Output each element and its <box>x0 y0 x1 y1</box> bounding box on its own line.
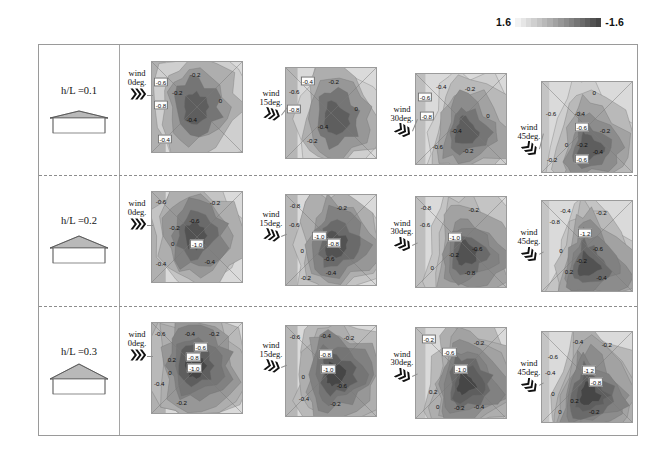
contour-value-label: -0.6 <box>156 198 166 205</box>
wind-arrow-chevron-icon <box>509 141 549 154</box>
contour-value-label: -0.2 <box>301 274 311 281</box>
colorbar-max-label: 1.6 <box>496 16 511 28</box>
matrix-row: h/L =0.1 -0.6-0.2-0.2-0.80-0.4-0.4wind0d… <box>39 45 637 175</box>
contour-panel: 0-0.6-0.4-0.6-0.20-0.2-0.4-0.2-0.6 <box>541 81 633 173</box>
figure-root: 1.6 -1.6 h/L =0.1 -0.6-0.2-0.2-0.80-0.4-… <box>0 0 666 460</box>
colorbar-min-label: -1.6 <box>605 16 624 28</box>
contour-value-label: 0 <box>171 240 174 247</box>
contour-value-label: -1.0 <box>321 364 335 373</box>
contour-value-label: 0.2 <box>429 388 437 395</box>
contour-value-label: -0.6 <box>574 123 588 132</box>
contour-value-label: -1.0 <box>312 232 326 241</box>
contour-value-label: -0.2 <box>329 77 339 84</box>
contour-value-label: -0.2 <box>600 126 610 133</box>
contour-value-label: 0.2 <box>168 356 176 363</box>
contour-value-label: -1.2 <box>578 229 592 238</box>
contour-value-label: -0.2 <box>577 141 587 148</box>
contour-value-label: -0.2 <box>190 70 200 77</box>
contour-value-label: -0.8 <box>327 239 341 248</box>
contour-value-label: -0.4 <box>185 329 195 336</box>
contour-value-label: -1.0 <box>454 364 468 373</box>
contour-value-label: 0 <box>436 402 439 409</box>
contour-value-label: 0 <box>301 247 304 254</box>
contour-value-label: -0.2 <box>463 146 473 153</box>
wind-leader-line <box>147 225 153 226</box>
contour-panel: -0.4-0.2-0.6-1.2-0.4-0.800.20-0.2 <box>541 331 633 423</box>
wind-direction-annotation: wind45deg. <box>509 228 549 259</box>
building-section-icon <box>47 232 111 266</box>
contour-value-label: 0 <box>593 88 596 95</box>
contour-value-label: -0.2 <box>576 257 586 264</box>
contour-value-label: -1.0 <box>187 364 201 373</box>
colorbar-gradient <box>515 18 601 27</box>
row-label-cell: h/L =0.2 <box>39 175 119 305</box>
wind-direction-annotation: wind30deg. <box>382 219 422 250</box>
contour-value-label: -0.4 <box>436 82 446 89</box>
contour-panel: -0.6-0.4-0.2-0.8-1.00-0.6-0.4-0.2 <box>285 325 377 417</box>
contour-value-label: -0.4 <box>560 207 570 214</box>
contour-panel: -0.8-0.2-0.6-1.0-0.6-0.20-0.8 <box>415 196 507 288</box>
contour-value-label: -0.6 <box>432 143 442 150</box>
wind-direction-annotation: wind45deg. <box>509 123 549 154</box>
wind-label-line2: 30deg. <box>382 358 422 367</box>
wind-direction-annotation: wind15deg. <box>251 89 291 120</box>
contour-value-label: -0.8 <box>421 204 431 211</box>
contour-value-label: -0.2 <box>209 329 219 336</box>
row-label-text: h/L =0.2 <box>61 215 97 226</box>
contour-value-label: -0.6 <box>548 353 558 360</box>
contour-value-label: 0 <box>301 373 304 380</box>
contour-value-label: -1.2 <box>582 365 596 374</box>
contour-value-label: -0.6 <box>189 216 199 223</box>
contour-value-label: 0 <box>551 390 554 397</box>
colorbar-group: 1.6 -1.6 <box>496 16 624 28</box>
contour-value-label: -0.4 <box>300 76 314 85</box>
contour-value-label: -0.6 <box>324 254 334 261</box>
contour-value-label: -0.8 <box>589 378 603 387</box>
contour-value-label: -0.2 <box>589 408 599 415</box>
building-section-icon <box>47 102 111 136</box>
contour-panel: -0.4-0.2-0.8-1.2-0.60-0.20.2-0.4 <box>541 200 633 292</box>
matrix-row: h/L =0.3 -0.6-0.4-0.2-0.6-0.80.2-1.00-0.… <box>39 306 637 437</box>
contour-value-label: -0.2 <box>421 335 435 344</box>
contour-value-label: -0.2 <box>177 399 187 406</box>
contour-value-label: -0.4 <box>451 126 461 133</box>
wind-leader-line <box>147 95 153 96</box>
contour-value-label: -0.6 <box>337 382 347 389</box>
contour-value-label: -0.4 <box>596 273 606 280</box>
contour-value-label: 0 <box>558 408 561 415</box>
contour-value-label: -0.4 <box>318 122 328 129</box>
contour-value-label: -0.8 <box>186 353 200 362</box>
wind-arrow-chevron-icon <box>509 247 549 260</box>
contour-panel: -0.4-0.2-0.6-0.80-0.4-0.6-0.2 <box>415 73 507 165</box>
contour-value-label: -0.4 <box>186 115 196 122</box>
wind-label-line2: 0deg. <box>117 339 157 348</box>
contour-value-label: -0.6 <box>442 347 456 356</box>
contour-value-label: -0.8 <box>290 201 300 208</box>
contour-value-label: -0.2 <box>330 400 340 407</box>
matrix-row: h/L =0.2 -0.6-0.2-0.6-0.20-1.0-0.4-0.4wi… <box>39 175 637 305</box>
contour-value-label: -0.6 <box>472 244 482 251</box>
wind-label-line2: 45deg. <box>509 237 549 246</box>
contour-value-label: -0.4 <box>204 258 214 265</box>
wind-arrow-chevron-icon <box>117 87 157 100</box>
contour-value-label: -0.8 <box>154 101 168 110</box>
wind-arrow-chevron-icon <box>382 123 422 136</box>
contour-value-label: -0.4 <box>157 134 171 143</box>
row-label-cell: h/L =0.1 <box>39 45 119 175</box>
contour-value-label: -0.2 <box>547 155 557 162</box>
contour-value-label: -0.6 <box>546 109 556 116</box>
contour-value-label: -0.4 <box>326 269 336 276</box>
contour-value-label: -0.4 <box>320 331 330 338</box>
wind-label-line2: 0deg. <box>117 78 157 87</box>
contour-value-label: -0.2 <box>172 88 182 95</box>
wind-label-line2: 15deg. <box>251 219 291 228</box>
contour-value-label: -0.2 <box>337 204 347 211</box>
wind-direction-annotation: wind15deg. <box>251 210 291 241</box>
wind-label-line2: 15deg. <box>251 350 291 359</box>
contour-value-label: -0.8 <box>465 269 475 276</box>
row-label-text: h/L =0.1 <box>61 85 97 96</box>
contour-value-label: -0.2 <box>468 206 478 213</box>
contour-value-label: -0.4 <box>575 109 585 116</box>
contour-value-label: 0 <box>565 141 568 148</box>
contour-value-label: -0.8 <box>318 350 332 359</box>
